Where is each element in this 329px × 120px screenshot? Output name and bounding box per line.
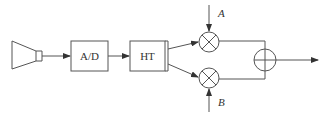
summer-icon (254, 49, 276, 71)
input-b-label: B (218, 96, 225, 108)
line-mixer-bottom-to-summer (219, 71, 265, 79)
adc-label: A/D (80, 50, 99, 62)
horn-antenna-icon (12, 41, 42, 69)
ht-label: HT (140, 50, 155, 62)
arrow-ht-to-mixer-top (168, 42, 198, 49)
input-a-label: A (217, 7, 225, 19)
hilbert-transform-block: HT (130, 41, 168, 71)
adc-block: A/D (71, 41, 108, 71)
mixer-top-icon (199, 32, 219, 52)
block-diagram: A/D HT A B (0, 0, 329, 120)
mixer-bottom-icon (199, 68, 219, 88)
line-mixer-top-to-summer (219, 41, 265, 49)
arrow-ht-to-mixer-bottom (168, 64, 198, 77)
